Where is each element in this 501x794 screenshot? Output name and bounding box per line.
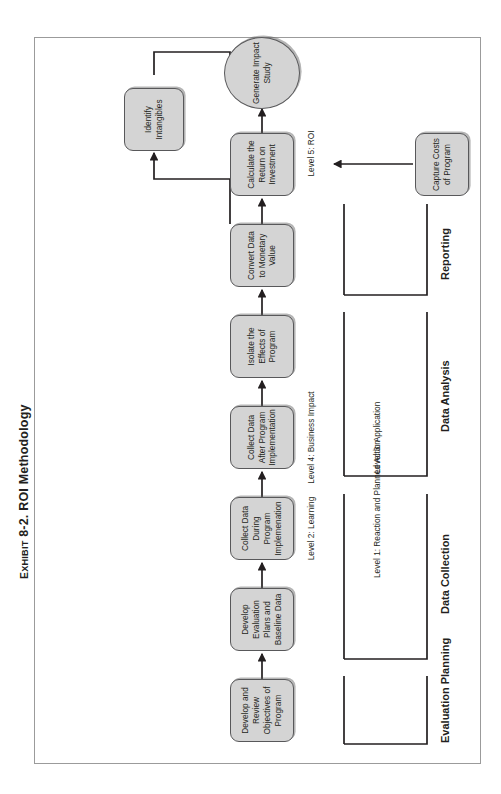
node-line: Effects of (257, 327, 268, 365)
level-line: Level 3: (372, 444, 382, 473)
level-label-2: Level 2: Learning (306, 481, 317, 576)
node-line: Objectives of (262, 687, 273, 735)
node-line: Isolate the (246, 327, 257, 365)
node-line: Develop (240, 594, 251, 646)
node-line: Generate (251, 69, 261, 104)
node-line: Plans and (262, 594, 273, 646)
level-line: Learning (306, 497, 316, 529)
node-line: During Program (251, 501, 273, 556)
exhibit-caption-number: 8-2. (17, 515, 31, 537)
node-line: Review (251, 687, 262, 735)
node-line: Investment (267, 140, 278, 188)
node-line: Collect Data (240, 501, 251, 556)
level-label-1: Level 1: Reaction and Planned Action (372, 478, 383, 578)
level-label-4: Level 4: Business Impact (306, 390, 317, 485)
node-line: Study (262, 62, 272, 83)
node-line: Calculate the (246, 140, 257, 188)
node-identify-intangibles[interactable]: Identify Intangibles (124, 88, 184, 151)
node-capture-costs[interactable]: Capture Costs of Program (415, 133, 469, 196)
section-label-data-collection: Data Collection (439, 534, 451, 614)
exhibit-caption: EXHIBIT 8-2. ROI Methodology (17, 179, 31, 579)
exhibit-caption-prefix: E (19, 572, 30, 579)
node-line: Implementation (267, 409, 278, 466)
section-label-data-analysis: Data Analysis (439, 360, 451, 432)
node-line: Return on (257, 140, 268, 188)
exhibit-caption-title: ROI Methodology (17, 404, 31, 510)
node-line: Program (273, 687, 284, 735)
node-collect-data-after[interactable]: Collect Data After Program Implementatio… (230, 406, 294, 469)
intangibles-in-arrow (154, 153, 230, 224)
node-collect-data-during[interactable]: Collect Data During Program Implemenatio… (230, 497, 294, 560)
roi-methodology-diagram: Develop and Review Objectives of Program… (34, 37, 481, 764)
node-line: After Program (257, 409, 268, 466)
bracket-data-analysis-a (344, 312, 427, 476)
node-isolate-effects[interactable]: Isolate the Effects of Program (230, 315, 294, 378)
level-line: Level 2: (306, 531, 316, 560)
node-line: to Monetary (257, 231, 268, 280)
node-line: Develop and (240, 687, 251, 735)
section-label-evaluation-planning: Evaluation Planning (439, 638, 451, 743)
node-develop-review-objectives[interactable]: Develop and Review Objectives of Program (230, 679, 294, 742)
section-label-reporting: Reporting (439, 228, 451, 280)
node-line: Identify (143, 99, 154, 139)
bracket-reporting-a (344, 204, 427, 295)
node-generate-impact-study[interactable]: Generate Impact Study (224, 37, 300, 109)
node-develop-evaluation-plans[interactable]: Develop Evaluation Plans and Baseline Da… (230, 588, 294, 651)
bracket-data-collection-a (344, 494, 427, 659)
level-label-3: Level 3: Application (372, 390, 383, 485)
intangibles-out-arrow (154, 52, 230, 78)
node-line: Evaluation (251, 594, 262, 646)
node-line: Baseline Data (273, 594, 284, 646)
node-line: Convert Data (246, 231, 257, 280)
node-line: Intangibles (154, 99, 165, 139)
level-line: Application (372, 402, 382, 443)
node-line: Impact (251, 42, 261, 67)
node-calculate-roi[interactable]: Calculate the Return on Investment (230, 133, 294, 196)
section-brackets (344, 204, 427, 744)
level-line: Level 4: (306, 455, 316, 484)
node-line: of Program (442, 138, 453, 191)
level-line: Level 5: ROI (306, 130, 316, 176)
bracket-evaluation-planning-a (344, 676, 427, 744)
node-line: Program (267, 327, 278, 365)
node-line: Collect Data (246, 409, 257, 466)
node-line: Capture Costs (431, 138, 442, 191)
node-line: Implemenation (273, 501, 284, 556)
node-line: Value (267, 231, 278, 280)
exhibit-caption-prefix-rest: XHIBIT (20, 541, 30, 572)
level-line: Business Impact (306, 391, 316, 452)
level-line: Reaction and (372, 498, 382, 547)
level-line: Level 1: (372, 549, 382, 578)
node-convert-data-monetary[interactable]: Convert Data to Monetary Value (230, 224, 294, 287)
level-label-5: Level 5: ROI (306, 106, 317, 201)
